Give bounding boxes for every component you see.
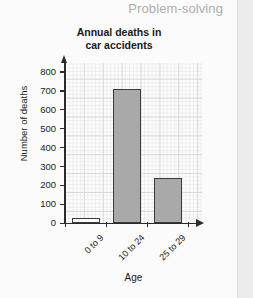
- y-axis-tick: [60, 128, 65, 129]
- y-axis-line: [64, 62, 66, 224]
- plot-area: 0100200300400500600700800 0 to 910 to 24…: [0, 0, 238, 298]
- y-axis-tick: [60, 109, 65, 110]
- y-axis-tick: [60, 166, 65, 167]
- x-axis-tick: [106, 222, 107, 227]
- x-axis-tick: [147, 222, 148, 227]
- y-axis-title: Number of deaths: [18, 74, 29, 174]
- y-axis-tick-label: 100: [18, 198, 56, 209]
- y-axis-tick: [60, 90, 65, 91]
- y-axis-tick-label: 0: [18, 217, 56, 228]
- x-axis-tick: [188, 222, 189, 227]
- bar: [113, 89, 141, 223]
- y-axis-tick: [60, 185, 65, 186]
- y-axis-tick-label: 200: [18, 179, 56, 190]
- x-axis-title: Age: [65, 272, 202, 283]
- y-axis-arrow-icon: [61, 55, 67, 63]
- page-background: Problem-solving Annual deaths in car acc…: [0, 0, 253, 298]
- y-axis-tick: [60, 204, 65, 205]
- bar: [72, 218, 100, 223]
- worksheet-card: Problem-solving Annual deaths in car acc…: [0, 0, 238, 298]
- x-axis-tick: [65, 222, 66, 227]
- y-axis-tick: [60, 147, 65, 148]
- bar: [154, 178, 182, 223]
- y-axis-tick: [60, 71, 65, 72]
- x-axis-arrow-icon: [196, 219, 204, 227]
